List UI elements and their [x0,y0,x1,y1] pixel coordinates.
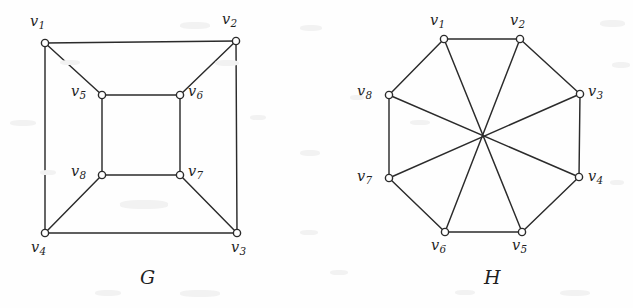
vertex-label-h-v1: v1 [430,13,445,28]
vertex-label-h-v8: v8 [357,84,372,99]
vertex-label-g-v6: v6 [188,84,203,99]
vertex-label-h-v6: v6 [431,238,446,253]
edges-layer [45,39,580,233]
graph-vertex-h-v8 [385,91,392,98]
vertex-label-g-v3: v3 [231,240,246,255]
graph-vertex-h-v4 [575,173,582,180]
graph-vertex-h-v7 [385,174,392,181]
vertex-label-g-v1: v1 [30,14,45,29]
graph-vertex-h-v6 [441,228,448,235]
graph-vertex-g-v8 [98,171,105,178]
vertex-label-g-v7: v7 [188,164,203,179]
vertex-label-g-v8: v8 [71,164,86,179]
graph-edge-g-v3-v7 [180,175,237,233]
vertex-label-g-v5: v5 [71,84,86,99]
graph-vertex-g-v2 [232,37,239,44]
graph-vertex-g-v3 [233,229,240,236]
graph-vertex-g-v7 [176,171,183,178]
vertex-label-g-v4: v4 [31,240,46,255]
graph-vertex-g-v1 [41,39,48,46]
vertex-label-g-v2: v2 [222,12,237,27]
graph-edge-h-v4-v5 [522,177,579,232]
graph-edge-g-v4-v8 [45,175,102,233]
graph-vertex-h-v1 [440,35,447,42]
graph-edge-g-v2-v3 [236,41,237,233]
vertex-label-h-v3: v3 [588,84,603,99]
vertex-label-h-v7: v7 [357,169,372,184]
graph-edge-g-v1-v2 [45,41,236,43]
vertex-label-h-v5: v5 [512,238,527,253]
graph-name-h: H [484,268,501,287]
graph-vertex-g-v6 [176,91,183,98]
graph-name-g: G [140,268,155,287]
graph-vertex-g-v4 [41,229,48,236]
graph-vertex-h-v5 [518,228,525,235]
vertex-label-h-v2: v2 [510,13,525,28]
graph-edge-h-v8-v1 [389,39,444,95]
graph-edge-h-v2-v3 [520,39,580,94]
graph-vertex-g-v5 [98,91,105,98]
vertices-layer [41,35,583,236]
graph-drawing-canvas [0,0,633,308]
graph-vertex-h-v3 [576,90,583,97]
graph-vertex-h-v2 [516,35,523,42]
graph-figure: v1v2v3v4v5v6v7v8v1v2v3v4v5v6v7v8 GH [0,0,633,308]
vertex-label-h-v4: v4 [588,169,603,184]
graph-edge-h-v3-v4 [579,94,580,177]
graph-edge-h-v6-v7 [389,178,445,232]
